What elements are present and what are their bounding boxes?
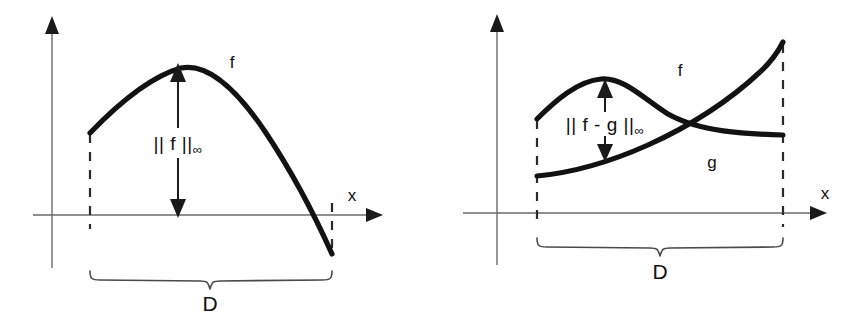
right-domain-brace: [537, 238, 783, 256]
left-y-axis: [45, 16, 59, 268]
figure-root: || f ||∞ f x D: [0, 0, 857, 319]
left-curve-label-f: f: [230, 53, 235, 72]
right-x-axis-label: x: [821, 184, 830, 203]
left-curve-f: [90, 67, 332, 254]
right-domain-label: D: [652, 260, 667, 283]
left-norm-label: || f ||∞: [154, 133, 203, 157]
panel-uniform-distance-f-g: || f - g ||∞ f g x D: [430, 0, 857, 319]
right-norm-label-text: || f - g ||: [566, 114, 635, 135]
right-curve-label-g: g: [707, 153, 716, 172]
right-x-axis: [463, 206, 827, 220]
left-x-axis-label: x: [348, 186, 357, 205]
right-panel-svg: || f - g ||∞ f g x D: [430, 0, 857, 319]
right-y-axis: [490, 14, 504, 265]
right-norm-label: || f - g ||∞: [566, 114, 644, 138]
right-curve-label-f: f: [678, 61, 683, 80]
left-norm-label-subscript: ∞: [193, 142, 203, 157]
left-x-axis: [33, 208, 383, 222]
left-panel-svg: || f ||∞ f x D: [0, 0, 430, 319]
left-domain-brace: [90, 271, 332, 289]
left-domain-label: D: [202, 292, 217, 315]
panel-sup-norm-of-f: || f ||∞ f x D: [0, 0, 430, 319]
left-norm-label-text: || f ||: [154, 133, 193, 154]
right-norm-label-subscript: ∞: [634, 123, 644, 138]
